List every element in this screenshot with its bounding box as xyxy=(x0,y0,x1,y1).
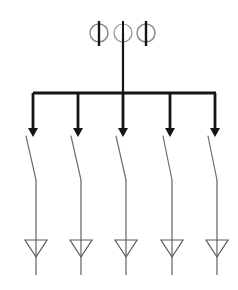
diagram-canvas xyxy=(0,0,238,290)
single-line-diagram xyxy=(0,0,238,290)
